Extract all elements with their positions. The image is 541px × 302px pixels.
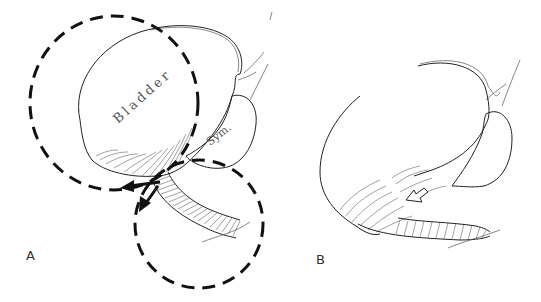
bladder-label: Bladder <box>110 66 174 126</box>
urethra-outline <box>152 178 236 238</box>
pelvic-line <box>270 12 272 20</box>
panel-label-b: B <box>316 252 325 267</box>
dashed-circle-upper <box>30 16 198 190</box>
pelvic-line <box>486 84 506 100</box>
panel-b <box>270 12 520 248</box>
bladder-outline <box>414 63 489 176</box>
panel-a: Bladder Sym. <box>30 16 268 288</box>
bladder-base-hatching <box>340 166 446 232</box>
illustration: Bladder Sym. <box>0 0 541 302</box>
panel-label-a: A <box>26 248 35 263</box>
bladder-outline <box>320 96 380 235</box>
bladder-outline <box>79 26 242 177</box>
pelvic-line <box>244 52 264 73</box>
symphysis-outline <box>452 112 512 187</box>
hollow-arrow-icon <box>406 188 428 202</box>
arrow-down-icon <box>139 186 158 212</box>
pelvic-line <box>250 64 268 100</box>
urethra-hatching <box>154 176 240 236</box>
bladder-outline-inner <box>150 27 239 72</box>
urethra-outline <box>398 218 490 232</box>
perineum-line <box>448 230 500 248</box>
perineum-line <box>202 222 250 242</box>
pelvic-line <box>502 60 520 106</box>
